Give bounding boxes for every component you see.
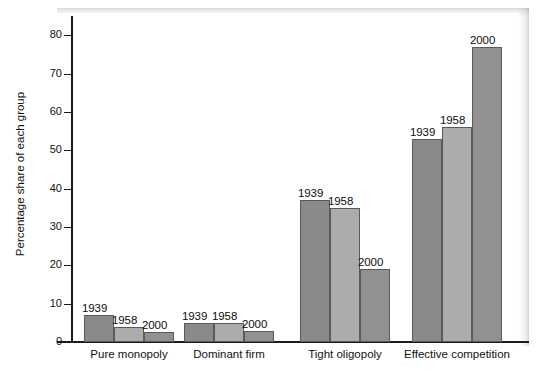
bar-value-label: 1958	[112, 314, 137, 326]
bar-value-label: 1939	[182, 310, 207, 322]
bar-value-label: 2000	[242, 318, 267, 330]
y-tick-label-wrap: 0	[0, 336, 62, 347]
y-axis-title: Percentage share of each group	[14, 59, 26, 289]
y-tick-label-wrap: 10	[0, 298, 62, 309]
y-tick-mark	[64, 74, 72, 75]
bar-group: 193919582000	[300, 16, 390, 342]
y-tick-mark	[64, 150, 72, 151]
bar	[412, 139, 442, 342]
y-tick-label: 50	[36, 144, 62, 155]
bar	[84, 315, 114, 342]
bar-group: 193919582000	[412, 16, 502, 342]
bar	[184, 323, 214, 342]
bar	[330, 208, 360, 342]
y-tick-mark	[64, 35, 72, 36]
y-tick-label: 80	[36, 29, 62, 40]
x-axis-category-label: Effective competition	[367, 348, 536, 360]
bar-value-label: 1958	[440, 114, 465, 126]
bar	[114, 327, 144, 342]
bar-group: 193919582000	[184, 16, 274, 342]
y-tick-mark	[64, 304, 72, 305]
bar	[244, 331, 274, 343]
y-tick-label-wrap: 50	[0, 144, 62, 155]
bar-value-label: 1958	[212, 310, 237, 322]
y-tick-label: 40	[36, 183, 62, 194]
bar	[442, 127, 472, 342]
y-tick-mark	[64, 342, 72, 343]
bar-chart-figure: 01020304050607080 Percentage share of ea…	[0, 0, 536, 377]
y-tick-label: 0	[36, 336, 62, 347]
y-tick-mark	[64, 265, 72, 266]
bar-value-label: 1958	[328, 195, 353, 207]
bar	[214, 323, 244, 342]
bar-value-label: 2000	[358, 256, 383, 268]
bar-value-label: 2000	[142, 319, 167, 331]
y-tick-label-wrap: 20	[0, 259, 62, 270]
y-tick-label-wrap: 80	[0, 29, 62, 40]
y-tick-mark	[64, 112, 72, 113]
bar-value-label: 1939	[82, 302, 107, 314]
bar-value-label: 1939	[410, 126, 435, 138]
bar	[300, 200, 330, 342]
bar-value-label: 1939	[298, 187, 323, 199]
plot-area: 1939195820001939195820001939195820001939…	[72, 16, 524, 342]
bar	[144, 332, 174, 342]
bar	[360, 269, 390, 342]
y-tick-label: 70	[36, 68, 62, 79]
y-tick-label-wrap: 30	[0, 221, 62, 232]
bar-group: 193919582000	[84, 16, 174, 342]
y-tick-label: 60	[36, 106, 62, 117]
y-tick-label: 30	[36, 221, 62, 232]
y-tick-mark	[64, 189, 72, 190]
y-tick-label: 10	[36, 298, 62, 309]
y-tick-label-wrap: 60	[0, 106, 62, 117]
y-tick-label-wrap: 70	[0, 68, 62, 79]
bar-value-label: 2000	[470, 34, 495, 46]
y-tick-label-wrap: 40	[0, 183, 62, 194]
y-tick-label: 20	[36, 259, 62, 270]
y-tick-mark	[64, 227, 72, 228]
bar	[472, 47, 502, 342]
